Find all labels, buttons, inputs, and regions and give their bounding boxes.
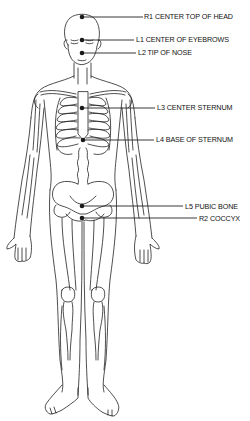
knee-left xyxy=(61,287,75,302)
sternum xyxy=(78,92,88,140)
knee-right xyxy=(91,287,105,302)
point-dot-l4 xyxy=(81,138,86,143)
point-dot-l3 xyxy=(80,106,85,111)
point-dot-l5 xyxy=(80,204,85,209)
label-l3-center-sternum: L3 CENTER STERNUM xyxy=(157,104,232,112)
torso-right xyxy=(115,100,122,190)
arm-left xyxy=(7,100,44,262)
point-dot-r2 xyxy=(80,216,85,221)
mouth xyxy=(78,60,86,61)
shoulders xyxy=(31,76,135,118)
hand-left xyxy=(7,236,32,262)
eye-left xyxy=(71,40,78,41)
ribs-right xyxy=(86,97,111,154)
label-l5-pubic-bone: L5 PUBIC BONE xyxy=(185,203,238,211)
label-l1-center-of-eyebrows: L1 CENTER OF EYEBROWS xyxy=(136,36,229,44)
leg-right xyxy=(84,190,119,416)
pelvis xyxy=(52,181,113,214)
point-dot-l1 xyxy=(80,38,85,43)
label-r1-center-top-of-head: R1 CENTER TOP OF HEAD xyxy=(144,13,233,21)
ribs-left xyxy=(55,97,80,154)
label-l2-tip-of-nose: L2 TIP OF NOSE xyxy=(138,49,192,57)
hand-right xyxy=(135,236,160,264)
label-r2-coccyx: R2 COCCYX xyxy=(199,215,240,223)
leg-left xyxy=(45,190,82,414)
arm-right xyxy=(122,100,159,264)
neck xyxy=(74,63,91,78)
label-l4-base-of-sternum: L4 BASE OF STERNUM xyxy=(156,136,233,144)
spine xyxy=(77,148,88,184)
torso-left xyxy=(44,100,51,190)
ear-left xyxy=(64,40,67,49)
point-dot-r1 xyxy=(80,15,85,20)
point-dot-l2 xyxy=(80,51,85,56)
body-outline xyxy=(7,14,159,416)
